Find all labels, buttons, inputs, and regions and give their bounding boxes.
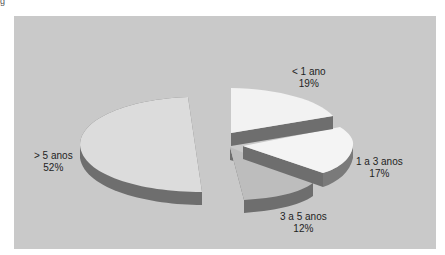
label-1to3-anos-name: 1 a 3 anos (356, 156, 403, 168)
label-gt5-anos-name: > 5 anos (34, 150, 73, 162)
label-1to3-anos-pct: 17% (356, 168, 403, 180)
slice-gt5-anos (80, 97, 202, 205)
label-3to5-anos-pct: 12% (280, 223, 327, 235)
label-3to5-anos-name: 3 a 5 anos (280, 211, 327, 223)
label-lt1-ano-name: < 1 ano (292, 66, 326, 78)
label-gt5-anos: > 5 anos 52% (34, 150, 73, 174)
label-lt1-ano-pct: 19% (292, 78, 326, 90)
pie-chart (0, 0, 445, 255)
label-gt5-anos-pct: 52% (34, 162, 73, 174)
label-3to5-anos: 3 a 5 anos 12% (280, 211, 327, 235)
label-lt1-ano: < 1 ano 19% (292, 66, 326, 90)
label-1to3-anos: 1 a 3 anos 17% (356, 156, 403, 180)
